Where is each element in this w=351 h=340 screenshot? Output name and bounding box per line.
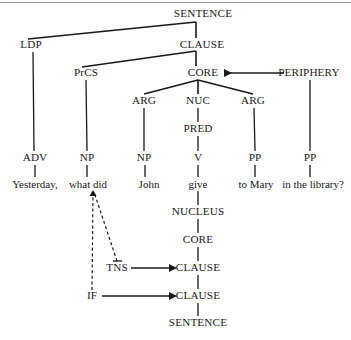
node-sentence-operator: SENTENCE — [169, 317, 227, 328]
node-pp-periphery: PP — [304, 152, 317, 163]
dashed-if-to-whatdid — [92, 192, 93, 290]
edge-arg2-pp — [254, 108, 255, 151]
node-clause-operator-tns: CLAUSE — [176, 262, 220, 273]
word-give: give — [189, 179, 208, 190]
edge-core-arg1 — [144, 80, 198, 94]
word-to-mary: to Mary — [238, 179, 273, 190]
edge-prcs-np — [86, 80, 87, 151]
node-arg-left: ARG — [132, 95, 156, 106]
node-nuc: NUC — [186, 95, 210, 106]
node-np-prcs: NP — [80, 152, 95, 163]
word-what-did: what did — [69, 179, 107, 190]
rrg-tree-diagram: SENTENCE LDP CLAUSE PrCS CORE PERIPHERY … — [0, 0, 351, 340]
edge-ldp-adv — [33, 52, 34, 151]
node-clause-top: CLAUSE — [180, 39, 224, 50]
node-ldp: LDP — [20, 39, 42, 50]
edge-clause-prcs — [82, 51, 196, 67]
edge-core-arg2 — [198, 80, 253, 94]
node-clause-operator-if: CLAUSE — [176, 290, 220, 301]
operator-if: IF — [87, 290, 97, 301]
node-core-top: CORE — [188, 67, 218, 78]
word-in-the-library: in the library? — [282, 179, 344, 190]
node-nucleus-operator: NUCLEUS — [172, 206, 225, 217]
dashed-arrowhead-whatdid — [90, 190, 97, 196]
top-divider-rule — [0, 2, 351, 3]
word-yesterday: Yesterday, — [12, 179, 58, 190]
edge-sentence-ldp — [28, 22, 196, 39]
node-adv: ADV — [23, 152, 48, 163]
word-john: John — [139, 179, 160, 190]
operator-tns: TNS — [106, 262, 128, 273]
node-v: V — [194, 152, 202, 163]
node-np-arg: NP — [137, 152, 152, 163]
node-pp-arg: PP — [249, 152, 262, 163]
node-prcs: PrCS — [74, 67, 98, 78]
node-arg-right: ARG — [241, 95, 265, 106]
node-sentence-top: SENTENCE — [174, 8, 232, 19]
dashed-tns-to-whatdid — [94, 192, 117, 261]
node-core-operator: CORE — [183, 234, 213, 245]
node-periphery: PERIPHERY — [278, 67, 340, 78]
node-pred: PRED — [183, 123, 212, 134]
